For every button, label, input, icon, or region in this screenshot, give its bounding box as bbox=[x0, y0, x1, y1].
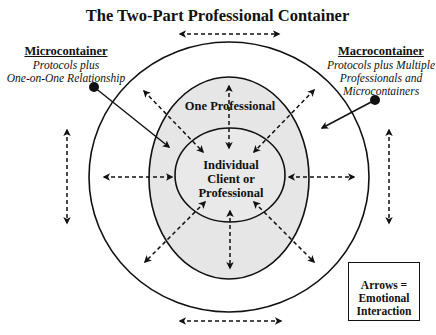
core-label-line-3: Professional bbox=[175, 186, 287, 200]
core-label: Individual Client or Professional bbox=[175, 158, 287, 200]
legend-text: Arrows = Emotional Interaction bbox=[349, 279, 419, 318]
macrocontainer-desc-3: Microcontainers bbox=[326, 85, 436, 98]
legend-line-1: Arrows = bbox=[349, 279, 419, 292]
microcontainer-label: Microcontainer Protocols plus One-on-One… bbox=[4, 44, 128, 85]
microcontainer-pointer-arrow bbox=[94, 87, 169, 147]
macrocontainer-label: Macrocontainer Protocols plus Multiple P… bbox=[326, 44, 436, 98]
macrocontainer-pointer-arrow bbox=[322, 100, 375, 128]
microcontainer-desc-1: Protocols plus bbox=[4, 59, 128, 72]
legend-box: Arrows = Emotional Interaction bbox=[348, 262, 420, 321]
microcontainer-desc-2: One-on-One Relationship bbox=[4, 72, 128, 85]
macrocontainer-heading: Macrocontainer bbox=[326, 44, 436, 59]
one-professional-label: One Professional bbox=[160, 99, 300, 114]
microcontainer-heading: Microcontainer bbox=[4, 44, 128, 59]
legend-line-2: Emotional bbox=[349, 292, 419, 305]
core-label-line-2: Client or bbox=[175, 172, 287, 186]
legend-line-3: Interaction bbox=[349, 305, 419, 318]
diagram-title: The Two-Part Professional Container bbox=[0, 6, 435, 26]
macrocontainer-desc-2: Professionals and bbox=[326, 72, 436, 85]
core-label-line-1: Individual bbox=[175, 158, 287, 172]
macrocontainer-desc-1: Protocols plus Multiple bbox=[326, 59, 436, 72]
